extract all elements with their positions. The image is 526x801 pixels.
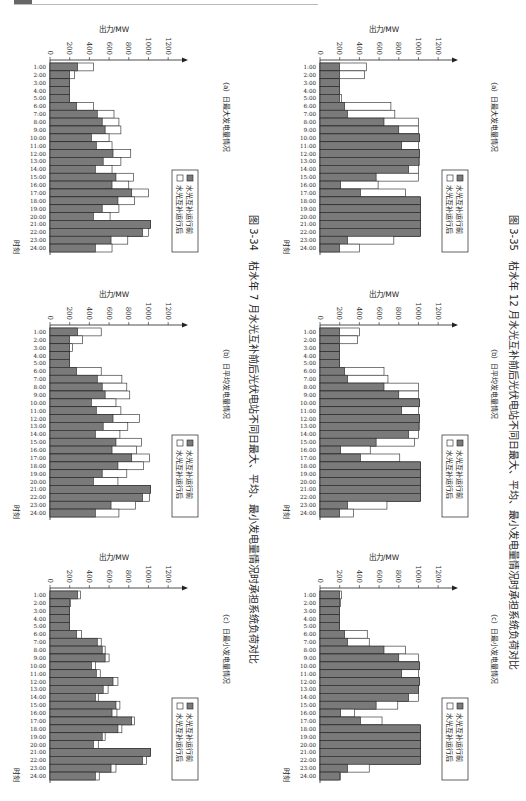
svg-text:24:00: 24:00	[300, 510, 317, 516]
svg-text:5:00: 5:00	[33, 623, 46, 629]
svg-text:6:00: 6:00	[33, 368, 46, 374]
svg-text:14:00: 14:00	[300, 694, 317, 700]
svg-text:15:00: 15:00	[300, 439, 317, 445]
svg-text:18:00: 18:00	[300, 198, 317, 204]
chart-svg: 020040060080010001200出力/MW1:002:003:004:…	[280, 20, 470, 265]
svg-text:3:00: 3:00	[303, 80, 316, 86]
svg-text:出力/MW: 出力/MW	[369, 552, 400, 562]
svg-text:23:00: 23:00	[300, 237, 317, 243]
svg-text:12:00: 12:00	[30, 151, 47, 157]
svg-text:5:00: 5:00	[33, 360, 46, 366]
svg-text:1000: 1000	[144, 37, 152, 55]
svg-text:15:00: 15:00	[300, 174, 317, 180]
svg-text:400: 400	[355, 42, 363, 55]
chart-fig35-c: 020040060080010001200出力/MW1:002:003:004:…	[280, 548, 470, 793]
svg-text:17:00: 17:00	[300, 455, 317, 461]
svg-text:200: 200	[65, 570, 73, 583]
svg-text:19:00: 19:00	[30, 206, 47, 212]
subcaption-fig34-a: （a）日最大发电量情况	[222, 78, 232, 152]
svg-text:7:00: 7:00	[303, 111, 316, 117]
svg-text:13:00: 13:00	[300, 423, 317, 429]
svg-text:14:00: 14:00	[300, 431, 317, 437]
svg-text:9:00: 9:00	[303, 392, 316, 398]
svg-text:15:00: 15:00	[30, 174, 47, 180]
svg-text:9:00: 9:00	[303, 655, 316, 661]
svg-text:600: 600	[375, 42, 383, 55]
svg-text:时刻: 时刻	[12, 505, 21, 519]
svg-text:14:00: 14:00	[30, 166, 47, 172]
svg-text:800: 800	[124, 42, 132, 55]
chart-fig35-b: 020040060080010001200出力/MW1:002:003:004:…	[280, 285, 470, 530]
svg-text:7:00: 7:00	[33, 639, 46, 645]
svg-text:16:00: 16:00	[30, 710, 47, 716]
svg-text:6:00: 6:00	[33, 103, 46, 109]
chart-svg: 020040060080010001200出力/MW1:002:003:004:…	[10, 20, 200, 265]
chart-fig34-b: 020040060080010001200出力/MW1:002:003:004:…	[10, 285, 200, 530]
chart-fig34-a: 020040060080010001200出力/MW1:002:003:004:…	[10, 20, 200, 265]
chart-svg: 020040060080010001200出力/MW1:002:003:004:…	[280, 548, 470, 793]
svg-text:时刻: 时刻	[12, 240, 21, 254]
subcaption-fig35-a: （a）日最大发电量情况	[490, 78, 500, 152]
svg-text:400: 400	[85, 307, 93, 320]
svg-text:24:00: 24:00	[300, 773, 317, 779]
svg-text:10:00: 10:00	[30, 400, 47, 406]
svg-text:1000: 1000	[414, 302, 422, 320]
svg-text:800: 800	[124, 307, 132, 320]
svg-text:5:00: 5:00	[33, 95, 46, 101]
svg-text:24:00: 24:00	[30, 510, 47, 516]
svg-text:18:00: 18:00	[300, 726, 317, 732]
svg-text:11:00: 11:00	[30, 143, 47, 149]
svg-text:8:00: 8:00	[303, 384, 316, 390]
svg-text:1:00: 1:00	[33, 64, 46, 70]
svg-text:1000: 1000	[414, 37, 422, 55]
svg-text:11:00: 11:00	[300, 671, 317, 677]
svg-text:20:00: 20:00	[300, 214, 317, 220]
subcaption-fig35-b: （b）日平均发电量情况	[490, 345, 500, 419]
svg-text:6:00: 6:00	[303, 631, 316, 637]
svg-text:400: 400	[355, 307, 363, 320]
svg-text:4:00: 4:00	[33, 616, 46, 622]
svg-text:9:00: 9:00	[33, 655, 46, 661]
svg-text:600: 600	[375, 307, 383, 320]
svg-text:1200: 1200	[164, 565, 172, 583]
svg-text:20:00: 20:00	[30, 214, 47, 220]
svg-text:1:00: 1:00	[303, 64, 316, 70]
chart-svg: 020040060080010001200出力/MW1:002:003:004:…	[10, 285, 200, 530]
svg-text:13:00: 13:00	[30, 686, 47, 692]
svg-text:水光互补运行前: 水光互补运行前	[185, 713, 194, 762]
svg-text:0: 0	[46, 316, 54, 320]
svg-text:2:00: 2:00	[303, 337, 316, 343]
svg-text:23:00: 23:00	[30, 502, 47, 508]
svg-text:11:00: 11:00	[300, 143, 317, 149]
svg-text:15:00: 15:00	[30, 702, 47, 708]
svg-text:17:00: 17:00	[300, 718, 317, 724]
svg-text:0: 0	[46, 579, 54, 583]
svg-text:21:00: 21:00	[30, 486, 47, 492]
svg-text:200: 200	[65, 307, 73, 320]
svg-text:1200: 1200	[434, 37, 442, 55]
svg-text:16:00: 16:00	[300, 447, 317, 453]
chart-svg: 020040060080010001200出力/MW1:002:003:004:…	[10, 548, 200, 793]
svg-text:时刻: 时刻	[282, 505, 291, 519]
svg-text:2:00: 2:00	[303, 72, 316, 78]
svg-text:12:00: 12:00	[300, 151, 317, 157]
svg-text:出力/MW: 出力/MW	[99, 289, 130, 299]
svg-text:18:00: 18:00	[30, 726, 47, 732]
chart-fig34-c: 020040060080010001200出力/MW1:002:003:004:…	[10, 548, 200, 793]
svg-text:24:00: 24:00	[300, 245, 317, 251]
svg-text:10:00: 10:00	[30, 135, 47, 141]
svg-text:10:00: 10:00	[300, 663, 317, 669]
svg-text:24:00: 24:00	[30, 245, 47, 251]
svg-text:23:00: 23:00	[300, 765, 317, 771]
svg-text:时刻: 时刻	[282, 240, 291, 254]
svg-text:3:00: 3:00	[33, 608, 46, 614]
svg-text:200: 200	[65, 42, 73, 55]
svg-text:5:00: 5:00	[303, 95, 316, 101]
svg-text:16:00: 16:00	[300, 182, 317, 188]
svg-text:18:00: 18:00	[30, 198, 47, 204]
svg-text:23:00: 23:00	[30, 237, 47, 243]
svg-text:400: 400	[85, 570, 93, 583]
svg-text:水光互补运行前: 水光互补运行前	[455, 713, 464, 762]
svg-text:21:00: 21:00	[30, 749, 47, 755]
svg-text:1000: 1000	[414, 565, 422, 583]
